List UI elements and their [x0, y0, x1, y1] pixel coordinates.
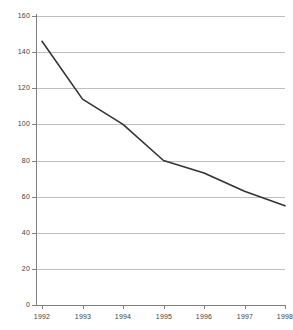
- y-tick-label: 80: [0, 157, 30, 165]
- y-tick-label: 100: [0, 120, 30, 128]
- x-tick-mark: [245, 305, 246, 309]
- y-tick-mark: [32, 52, 36, 53]
- x-tick-mark: [42, 305, 43, 309]
- x-tick-label: 1993: [63, 312, 103, 321]
- y-tick-mark: [32, 233, 36, 234]
- gridline: [36, 124, 285, 125]
- y-tick-label: 60: [0, 193, 30, 201]
- y-tick-label: 160: [0, 12, 30, 20]
- y-tick-label: 20: [0, 265, 30, 273]
- x-tick-label: 1992: [22, 312, 62, 321]
- x-tick-mark: [285, 305, 286, 309]
- y-tick-label: 40: [0, 229, 30, 237]
- x-tick-label: 1998: [265, 312, 293, 321]
- y-tick-mark: [32, 161, 36, 162]
- gridline: [36, 52, 285, 53]
- x-tick-label: 1997: [225, 312, 265, 321]
- x-axis-line: [36, 305, 286, 306]
- x-tick-label: 1996: [184, 312, 224, 321]
- line-chart: 020406080100120140160 199219931994199519…: [0, 0, 293, 330]
- gridline: [36, 161, 285, 162]
- gridline: [36, 16, 285, 17]
- y-tick-mark: [32, 16, 36, 17]
- x-tick-label: 1994: [103, 312, 143, 321]
- x-tick-mark: [204, 305, 205, 309]
- x-tick-label: 1995: [144, 312, 184, 321]
- gridline: [36, 269, 285, 270]
- y-tick-label: 140: [0, 48, 30, 56]
- y-tick-mark: [32, 305, 36, 306]
- gridline: [36, 197, 285, 198]
- y-tick-label: 0: [0, 301, 30, 309]
- gridline: [36, 233, 285, 234]
- y-tick-mark: [32, 197, 36, 198]
- y-tick-mark: [32, 88, 36, 89]
- x-tick-mark: [83, 305, 84, 309]
- y-tick-label: 120: [0, 84, 30, 92]
- y-tick-mark: [32, 124, 36, 125]
- x-tick-mark: [123, 305, 124, 309]
- series-layer: [0, 0, 293, 330]
- y-tick-mark: [32, 269, 36, 270]
- y-axis-line: [36, 14, 37, 306]
- gridline: [36, 88, 285, 89]
- x-tick-mark: [164, 305, 165, 309]
